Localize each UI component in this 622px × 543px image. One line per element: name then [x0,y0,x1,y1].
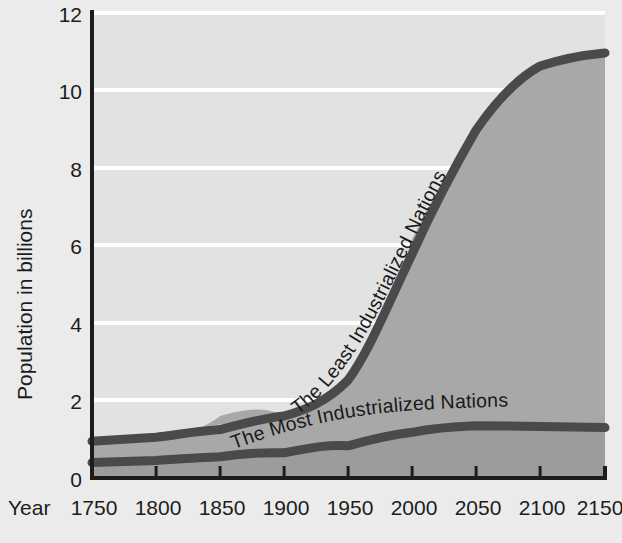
y-axis-title: Population in billions [13,209,36,400]
ytick-label-6: 6 [70,235,82,258]
ytick-label-10: 10 [59,80,82,103]
xtick-label-1950: 1950 [327,496,374,519]
ytick-label-2: 2 [70,390,82,413]
x-axis-title: Year [8,496,50,519]
chart-canvas: The Least Industrialized Nations The Mos… [0,0,622,543]
ytick-label-12: 12 [59,3,82,26]
ytick-label-0: 0 [70,468,82,491]
xtick-label-1800: 1800 [135,496,182,519]
ytick-label-8: 8 [70,158,82,181]
xtick-label-2050: 2050 [455,496,502,519]
xtick-label-1750: 1750 [71,496,118,519]
xtick-label-2100: 2100 [519,496,566,519]
population-growth-chart-figure: The Least Industrialized Nations The Mos… [0,0,622,543]
xtick-label-1850: 1850 [199,496,246,519]
xtick-label-2150: 2150 [577,496,622,519]
ytick-label-4: 4 [70,313,82,336]
xtick-label-2000: 2000 [391,496,438,519]
x-axis-tick-labels: 1750 1800 1850 1900 1950 2000 2050 2100 … [71,496,622,519]
xtick-label-1900: 1900 [263,496,310,519]
